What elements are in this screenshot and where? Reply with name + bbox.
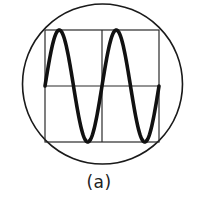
figure-caption: (a): [0, 172, 198, 192]
